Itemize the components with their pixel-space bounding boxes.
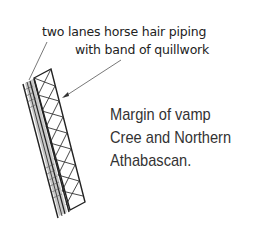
leader-line-quillwork bbox=[64, 60, 121, 97]
caption-line2: Cree and Northern bbox=[110, 127, 231, 149]
caption-line1: Margin of vamp bbox=[110, 104, 211, 126]
callout-label-line1: two lanes horse hair piping bbox=[42, 24, 206, 39]
caption-line3: Athabascan. bbox=[110, 150, 191, 172]
arrowhead-icon bbox=[62, 92, 69, 98]
callout-label-line2: with band of quillwork bbox=[75, 42, 209, 57]
